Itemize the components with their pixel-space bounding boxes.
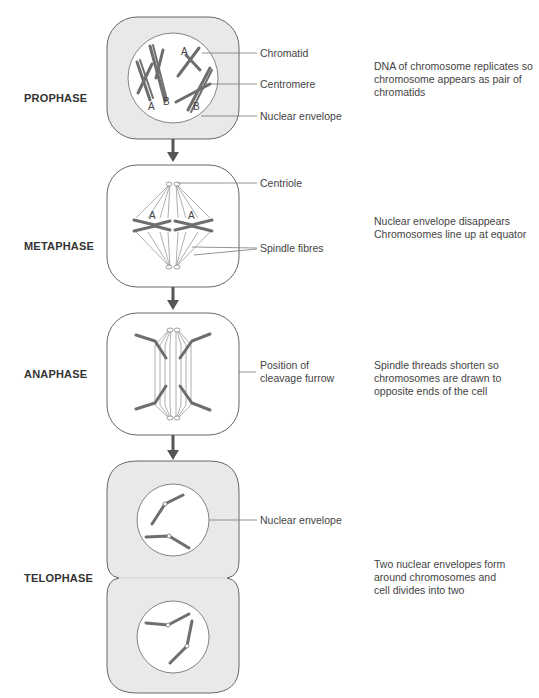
- phase-label-anaphase: ANAPHASE: [24, 368, 87, 380]
- callout-centriole: Centriole: [260, 177, 302, 190]
- callout-spindle-fibres: Spindle fibres: [260, 242, 324, 255]
- callout-nuclear-envelope-telophase: Nuclear envelope: [260, 514, 342, 527]
- chromosome-label-a1: A: [148, 101, 155, 112]
- arrow-prophase-to-metaphase: [167, 139, 179, 162]
- chromosome-label-b1: B: [163, 96, 170, 107]
- telophase-cells: [107, 461, 257, 693]
- callout-chromatid: Chromatid: [260, 47, 308, 60]
- chromosome-label-a2: A: [188, 210, 195, 221]
- callout-cleavage-furrow: Position of cleavage furrow: [260, 359, 350, 385]
- arrow-anaphase-to-telophase: [167, 435, 179, 460]
- description-anaphase: Spindle threads shorten so chromosomes a…: [374, 359, 524, 398]
- chromosome-label-a1: A: [149, 210, 156, 221]
- nuclear-envelope-upper: [137, 484, 209, 556]
- description-metaphase-line-2: Chromosomes line up at equator: [374, 228, 534, 241]
- chromosome-label-b2: B: [193, 101, 200, 112]
- prophase-cell: A B A B: [107, 17, 257, 139]
- description-prophase: DNA of chromosome replicates so chromoso…: [374, 60, 534, 99]
- description-telophase: Two nuclear envelopes form around chromo…: [374, 558, 514, 597]
- metaphase-cell: A A: [107, 165, 257, 287]
- description-metaphase-line-1: Nuclear envelope disappears: [374, 215, 534, 228]
- callout-centromere: Centromere: [260, 78, 315, 91]
- phase-label-telophase: TELOPHASE: [24, 572, 93, 584]
- description-metaphase: Nuclear envelope disappears Chromosomes …: [374, 215, 534, 241]
- phase-label-prophase: PROPHASE: [24, 92, 87, 104]
- phase-label-metaphase: METAPHASE: [24, 240, 94, 252]
- nuclear-envelope-lower: [137, 601, 209, 673]
- anaphase-cell: [107, 313, 256, 435]
- chromosome-label-a2: A: [181, 46, 188, 57]
- arrow-metaphase-to-anaphase: [167, 287, 179, 310]
- callout-nuclear-envelope-prophase: Nuclear envelope: [260, 110, 342, 123]
